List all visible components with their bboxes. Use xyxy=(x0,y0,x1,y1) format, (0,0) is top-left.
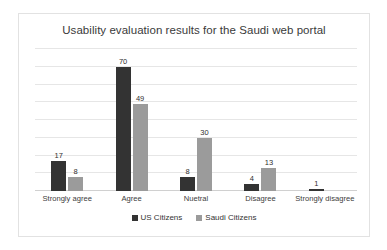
bar-group-bars: 1 xyxy=(293,49,357,191)
bar-group: 7049 xyxy=(99,49,163,191)
chart-legend: US CitizensSaudi Citizens xyxy=(19,213,369,222)
plot-area: 17870498304131 xyxy=(35,49,357,191)
bar-slot: 49 xyxy=(133,49,148,191)
bar-value-label: 49 xyxy=(136,94,144,103)
bar-slot: 13 xyxy=(261,49,276,191)
bar-group: 178 xyxy=(35,49,99,191)
legend-swatch-icon xyxy=(196,215,202,221)
bar[interactable] xyxy=(68,177,83,191)
bar-value-label: 8 xyxy=(185,167,189,176)
bar[interactable] xyxy=(51,161,66,191)
x-axis-tick-label: Agree xyxy=(99,194,163,203)
bar-group: 830 xyxy=(164,49,228,191)
bar-slot: 70 xyxy=(116,49,131,191)
legend-item[interactable]: Saudi Citizens xyxy=(196,213,256,222)
bar-value-label: 17 xyxy=(55,151,63,160)
bar[interactable] xyxy=(244,184,259,191)
bar-group-bars: 830 xyxy=(164,49,228,191)
bar-slot: 8 xyxy=(180,49,195,191)
bar-group-bars: 7049 xyxy=(99,49,163,191)
bar[interactable] xyxy=(133,104,148,191)
legend-item[interactable]: US Citizens xyxy=(132,213,183,222)
bar[interactable] xyxy=(197,138,212,191)
chart-container: Usability evaluation results for the Sau… xyxy=(18,13,370,237)
bar-groups: 17870498304131 xyxy=(35,49,357,191)
chart-title: Usability evaluation results for the Sau… xyxy=(19,24,369,36)
bar-slot: 8 xyxy=(68,49,83,191)
x-axis-tick-label: Disagree xyxy=(228,194,292,203)
bar-slot: 1 xyxy=(309,49,324,191)
bar-slot: 30 xyxy=(197,49,212,191)
bar[interactable] xyxy=(261,168,276,191)
bar-group-bars: 178 xyxy=(35,49,99,191)
bar[interactable] xyxy=(309,189,324,191)
bar-value-label: 4 xyxy=(250,174,254,183)
bar[interactable] xyxy=(116,67,131,191)
bar-group: 413 xyxy=(228,49,292,191)
x-axis-tick-label: Nuetral xyxy=(164,194,228,203)
x-axis-labels: Strongly agreeAgreeNuetralDisagreeStrong… xyxy=(35,194,357,203)
bar-slot xyxy=(326,49,341,191)
bar-value-label: 1 xyxy=(314,179,318,188)
x-axis-tick-label: Strongly agree xyxy=(35,194,99,203)
legend-label: US Citizens xyxy=(141,213,183,222)
bar-value-label: 13 xyxy=(265,158,273,167)
legend-label: Saudi Citizens xyxy=(205,213,256,222)
bar-group: 1 xyxy=(293,49,357,191)
bar-slot: 4 xyxy=(244,49,259,191)
bar-value-label: 70 xyxy=(119,57,127,66)
bar-group-bars: 413 xyxy=(228,49,292,191)
legend-swatch-icon xyxy=(132,215,138,221)
bar-value-label: 8 xyxy=(74,167,78,176)
bar[interactable] xyxy=(180,177,195,191)
bar-slot: 17 xyxy=(51,49,66,191)
x-axis-tick-label: Strongly disagree xyxy=(293,194,357,203)
bar-value-label: 30 xyxy=(200,128,208,137)
